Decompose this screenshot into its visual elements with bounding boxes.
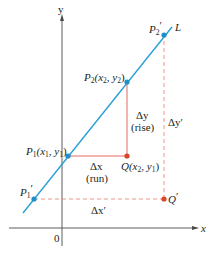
rise-label: (rise): [131, 121, 155, 134]
point-p2-label: P2(x2, y2): [83, 71, 125, 85]
delta-x-prime-label: Δx′: [91, 204, 106, 216]
point-p2-prime: [161, 32, 166, 37]
y-axis-arrow-icon: [60, 14, 64, 21]
point-p2-prime-label: P2′: [148, 19, 162, 37]
origin-label: 0: [54, 232, 60, 244]
point-q-label: Q(x2, y1): [121, 160, 159, 174]
point-q: [124, 153, 129, 158]
slope-diagram: y x 0 L P1(x1, y1) P2(x2, y2) Q(x2, y1) …: [0, 0, 214, 254]
point-p2: [124, 79, 129, 84]
point-q-prime: [161, 196, 166, 201]
run-label: (run): [86, 172, 108, 185]
point-p1-label: P1(x1, y1): [25, 145, 67, 159]
y-axis-label: y: [58, 3, 64, 15]
x-axis-arrow-icon: [192, 226, 199, 230]
delta-x-label: Δx: [90, 160, 103, 172]
point-q-prime-label: Q′: [168, 190, 178, 205]
y-axis: y: [58, 3, 64, 246]
x-axis: x: [9, 222, 206, 234]
delta-y-label: Δy: [136, 109, 149, 121]
point-p1-prime: [31, 196, 36, 201]
line-l: [23, 27, 172, 213]
point-p1-prime-label: P1′: [19, 182, 33, 200]
line-l-label: L: [174, 21, 181, 33]
delta-y-prime-label: Δy′: [168, 116, 183, 128]
x-axis-label: x: [200, 222, 206, 234]
